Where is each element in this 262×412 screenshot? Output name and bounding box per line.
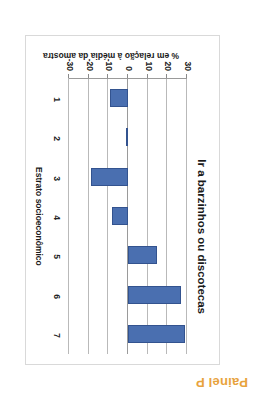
value-tick-label: 0 [125,66,134,71]
value-tick-label: 10 [144,62,153,71]
chart-frame: Ir a barzinhos ou discotecas % em relaçã… [25,35,220,365]
gridline [186,78,187,354]
category-tick-label: 4 [53,215,62,220]
gridline [147,78,148,354]
panel-label: Painel P [196,375,248,390]
bar [91,168,128,186]
category-axis-line [69,78,187,79]
gridline [107,78,108,354]
bar [126,128,128,146]
category-axis-title: Estrato socioeconômico [34,78,44,354]
chart-title: Ir a barzinhos ou discotecas [191,159,207,314]
plot-area [69,78,187,354]
gridline [88,78,89,354]
category-tick-label: 6 [53,294,62,299]
value-tick-label: -10 [105,59,114,71]
bar [110,89,128,107]
bar [128,286,181,304]
value-tick-label: -20 [85,59,94,71]
category-tick-label: 5 [53,255,62,260]
category-tick-label: 3 [53,176,62,181]
value-tick-label: 20 [164,62,173,71]
category-tick-label: 2 [53,136,62,141]
figure-stage: Painel P Ir a barzinhos ou discotecas % … [0,0,262,412]
value-tick-label: 30 [184,62,193,71]
gridline [68,78,69,354]
category-tick-label: 1 [53,97,62,102]
gridline [166,78,167,354]
bar [112,207,128,225]
bar [128,325,185,343]
bar [128,246,158,264]
value-tick-label: -30 [66,59,75,71]
category-tick-label: 7 [53,334,62,339]
